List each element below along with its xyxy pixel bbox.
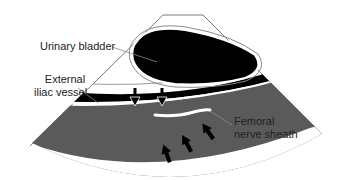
urinary-bladder-label: Urinary bladder [40, 40, 115, 53]
external-iliac-label-line1: External [34, 73, 87, 86]
urinary-bladder [132, 29, 258, 85]
external-iliac-label-line2: iliac vessel [34, 86, 87, 99]
femoral-nerve-sheath-label: Femoral nerve sheath [234, 115, 298, 141]
external-iliac-vessel-label: External iliac vessel [34, 73, 87, 99]
femoral-label-line2: nerve sheath [234, 128, 298, 141]
urinary-bladder-label-text: Urinary bladder [40, 40, 115, 52]
femoral-label-line1: Femoral [234, 115, 298, 128]
